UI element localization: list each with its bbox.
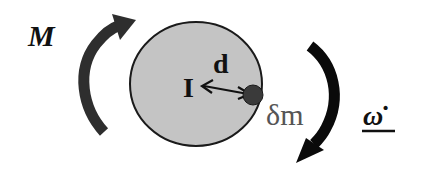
angular-acceleration-label: ω̇ (363, 100, 388, 131)
inertia-label: I (183, 72, 194, 103)
angular-acceleration-label-group: ω̇ (362, 100, 395, 131)
moment-label: M (27, 19, 56, 52)
diagram-canvas: M I d δm ω̇ (0, 0, 421, 174)
moment-arrow-icon (84, 14, 136, 132)
rigid-body-disk (130, 22, 262, 146)
rigid-body-rotation-diagram: M I d δm ω̇ (0, 0, 421, 174)
mass-element-label: δm (266, 98, 303, 131)
mass-element-point (243, 85, 263, 105)
distance-label: d (213, 48, 229, 79)
